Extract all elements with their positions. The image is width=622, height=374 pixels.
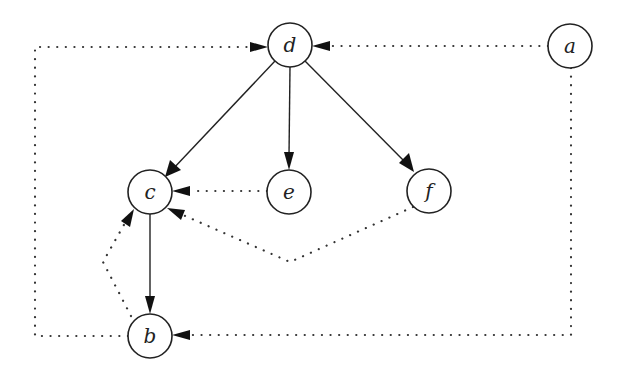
node-c[interactable]: c xyxy=(128,170,172,214)
edge-a-to-b xyxy=(190,68,571,335)
directed-graph-diagram: a b c d e f xyxy=(0,0,622,374)
node-d[interactable]: d xyxy=(268,23,312,67)
node-b[interactable]: b xyxy=(128,314,172,358)
node-a[interactable]: a xyxy=(548,24,592,68)
node-c-label: c xyxy=(144,180,155,204)
arrowhead-d-to-f xyxy=(399,153,414,172)
arrowhead-a-to-d xyxy=(312,41,330,51)
arrowhead-e-to-c xyxy=(172,186,190,196)
arrowhead-d-to-e xyxy=(284,152,294,170)
node-b-label: b xyxy=(144,324,157,348)
arrowhead-c-to-b xyxy=(145,296,155,314)
arrowhead-b-to-d xyxy=(250,42,268,52)
node-d-label: d xyxy=(284,33,297,57)
node-a-label: a xyxy=(564,34,576,58)
edge-d-to-f xyxy=(305,61,407,164)
arrowhead-b-to-c xyxy=(121,209,134,227)
arrowhead-a-to-b xyxy=(172,330,190,340)
edge-d-to-c xyxy=(172,61,275,170)
arrowhead-f-to-c xyxy=(167,208,185,220)
node-e[interactable]: e xyxy=(267,170,311,214)
node-e-label: e xyxy=(283,180,295,204)
node-f[interactable]: f xyxy=(407,169,451,213)
edge-d-to-e xyxy=(289,67,290,156)
edge-f-to-c xyxy=(183,207,413,262)
edge-b-to-c xyxy=(103,223,131,316)
